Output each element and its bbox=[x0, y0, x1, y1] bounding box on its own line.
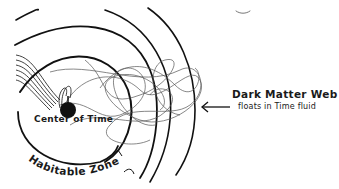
dark-matter-web-subtitle: floats in Time fluid bbox=[238, 102, 316, 111]
dark-matter-web-title: Dark Matter Web bbox=[232, 88, 338, 100]
ring-3 bbox=[16, 9, 38, 20]
dark-matter-web bbox=[50, 59, 202, 144]
center-of-time-label: Center of Time bbox=[34, 114, 113, 124]
top-mark bbox=[236, 11, 250, 13]
swirl-lines bbox=[16, 55, 71, 110]
callout-arrow-icon bbox=[202, 102, 230, 112]
